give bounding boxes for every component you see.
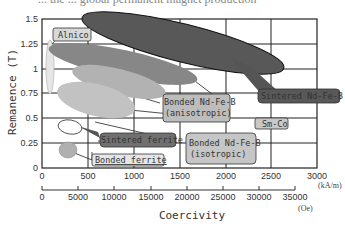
x-tick-labels-secondary: 0 5000 10000 15000 20000 25000 30000 350…	[39, 192, 307, 202]
x-unit-primary: (kA/m)	[318, 181, 342, 190]
x-tick-oe: 10000	[101, 192, 126, 202]
x-tick-oe: 5000	[68, 192, 88, 202]
x-tick: 1500	[170, 171, 190, 181]
svg-text:Sintered ferrite: Sintered ferrite	[101, 135, 183, 145]
y-tick: 1.25	[20, 39, 38, 49]
region-bonded-ferrite	[59, 142, 77, 158]
label-bonded-ferrite: Bonded ferrite	[92, 154, 167, 166]
x-tick-oe: 15000	[138, 192, 163, 202]
svg-text:(anisotropic): (anisotropic)	[165, 108, 232, 118]
label-sintered-ferrite: Sintered ferrite	[100, 133, 183, 147]
x-tick: 1000	[124, 171, 144, 181]
y-tick: 1	[33, 64, 38, 74]
x-tick-oe: 30000	[246, 192, 271, 202]
y-tick: 0.75	[20, 88, 38, 98]
svg-text:Bonded ferrite: Bonded ferrite	[95, 155, 167, 165]
x-tick-oe: 0	[39, 192, 44, 202]
svg-text:Sintered Nd-Fe-B: Sintered Nd-Fe-B	[261, 91, 343, 101]
y-tick: 0	[33, 163, 38, 173]
svg-text:Alnico: Alnico	[58, 30, 89, 40]
x-tick: 3000	[307, 171, 327, 181]
region-sintered-ferrite	[57, 118, 83, 136]
svg-text:Sm-Co: Sm-Co	[262, 119, 288, 129]
y-tick: 0.5	[25, 113, 38, 123]
label-bonded-ndfeb-iso: Bonded Nd-Fe-B (isotropic)	[186, 133, 261, 164]
y-tick-labels: 1.5 1.25 1 0.75 0.5 0.25 0	[20, 14, 38, 173]
label-bonded-ndfeb-aniso: Bonded Nd-Fe-B (anisotropic)	[163, 94, 236, 122]
svg-text:(isotropic): (isotropic)	[190, 149, 246, 159]
label-smco: Sm-Co	[255, 118, 288, 129]
label-sintered-ndfeb: Sintered Nd-Fe-B	[258, 89, 343, 103]
y-tick: 0.25	[20, 138, 38, 148]
svg-text:Bonded Nd-Fe-B: Bonded Nd-Fe-B	[164, 97, 236, 107]
x-tick: 2000	[216, 171, 236, 181]
svg-text:Bonded Nd-Fe-B: Bonded Nd-Fe-B	[189, 138, 261, 148]
x-tick-oe: 35000	[282, 192, 307, 202]
x-axis-title: Coercivity	[159, 209, 226, 222]
secondary-x-axis	[42, 186, 295, 190]
x-tick: 500	[80, 171, 95, 181]
x-tick-labels: 0 500 1000 1500 2000 2500 3000	[39, 171, 327, 181]
x-tick: 2500	[261, 171, 281, 181]
y-axis-title: Remanence (T)	[6, 49, 19, 135]
label-alnico: Alnico	[53, 28, 91, 41]
x-unit-secondary: (Oe)	[298, 204, 313, 213]
x-tick: 0	[39, 171, 44, 181]
x-tick-oe: 25000	[210, 192, 235, 202]
y-tick: 1.5	[25, 14, 38, 24]
remanence-coercivity-chart: 1.5 1.25 1 0.75 0.5 0.25 0 Remanence (T)…	[0, 0, 345, 230]
x-tick-oe: 20000	[174, 192, 199, 202]
